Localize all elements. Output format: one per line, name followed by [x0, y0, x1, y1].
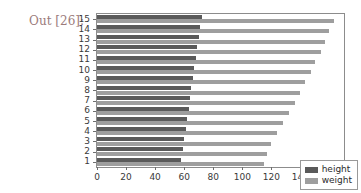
y-axis-tick-label: 3 [60, 137, 90, 146]
matplotlib-figure: 123456789101112131415 020406080100120140… [0, 0, 361, 193]
bar-weight [97, 80, 305, 84]
bar-weight [97, 111, 289, 115]
y-axis-tick-label: 13 [60, 35, 90, 44]
bar-group [97, 55, 344, 65]
y-axis-tick-label: 4 [60, 127, 90, 136]
legend-item: weight [305, 175, 352, 186]
y-axis-tick-mark [93, 70, 96, 71]
y-axis-tick-mark [93, 90, 96, 91]
bar-weight [97, 19, 334, 23]
bar-group [97, 75, 344, 85]
y-axis-tick-mark [93, 141, 96, 142]
bar-group [97, 45, 344, 55]
bar-height [97, 127, 186, 131]
bar-weight [97, 121, 283, 125]
bar-group [97, 34, 344, 44]
legend-item: height [305, 164, 352, 175]
bar-group [97, 14, 344, 24]
bar-height [97, 15, 202, 19]
y-axis-tick-mark [93, 80, 96, 81]
legend-swatch-icon [305, 167, 318, 173]
bar-weight [97, 60, 315, 64]
y-axis-tick-label: 9 [60, 76, 90, 85]
y-axis-tick-label: 7 [60, 96, 90, 105]
bar-weight [97, 29, 329, 33]
bar-weight [97, 152, 267, 156]
bar-height [97, 158, 181, 162]
y-axis-tick-mark [93, 101, 96, 102]
bar-weight [97, 50, 321, 54]
x-axis-tick-mark [155, 167, 156, 170]
y-axis-tick-label: 5 [60, 117, 90, 126]
y-axis-tick-mark [93, 50, 96, 51]
x-axis-tick-label: 120 [256, 173, 286, 182]
bar-group [97, 116, 344, 126]
bar-height [97, 107, 189, 111]
y-axis-tick-mark [93, 121, 96, 122]
legend-item-label: weight [322, 176, 352, 185]
x-axis-tick-label: 20 [111, 173, 141, 182]
y-axis-tick-label: 2 [60, 147, 90, 156]
bar-height [97, 137, 184, 141]
bar-weight [97, 101, 295, 105]
bar-height [97, 66, 194, 70]
bar-weight [97, 40, 325, 44]
x-axis-tick-label: 40 [140, 173, 170, 182]
x-axis-tick-mark [126, 167, 127, 170]
x-axis-tick-mark [271, 167, 272, 170]
bar-height [97, 56, 196, 60]
y-axis-tick-mark [93, 162, 96, 163]
y-axis-tick-label: 6 [60, 106, 90, 115]
x-axis-tick-label: 0 [82, 173, 112, 182]
y-axis-tick-mark [93, 60, 96, 61]
x-axis-tick-label: 80 [198, 173, 228, 182]
bar-height [97, 25, 200, 29]
bar-height [97, 45, 197, 49]
bar-height [97, 147, 183, 151]
y-axis-tick-label: 15 [60, 15, 90, 24]
y-axis-tick-label: 11 [60, 55, 90, 64]
bar-group [97, 126, 344, 136]
bar-group [97, 85, 344, 95]
y-axis-tick-label: 8 [60, 86, 90, 95]
bar-group [97, 24, 344, 34]
legend-swatch-icon [305, 178, 318, 184]
y-axis-tick-mark [93, 29, 96, 30]
y-axis-tick-mark [93, 111, 96, 112]
y-axis-tick-label: 14 [60, 25, 90, 34]
legend-item-label: height [322, 165, 351, 174]
x-axis-tick-mark [184, 167, 185, 170]
y-axis-tick-mark [93, 40, 96, 41]
x-axis-tick-mark [97, 167, 98, 170]
y-axis-tick-mark [93, 19, 96, 20]
bar-weight [97, 142, 271, 146]
y-axis-tick-label: 10 [60, 66, 90, 75]
y-axis-tick-mark [93, 131, 96, 132]
chart-legend: height weight [300, 160, 358, 190]
x-axis-tick-label: 100 [227, 173, 257, 182]
bar-height [97, 76, 193, 80]
x-axis-tick-mark [213, 167, 214, 170]
bar-weight [97, 162, 264, 166]
bar-weight [97, 70, 311, 74]
plot-axes-frame [96, 13, 345, 168]
bar-height [97, 35, 199, 39]
bar-group [97, 147, 344, 157]
x-axis-tick-label: 60 [169, 173, 199, 182]
bar-height [97, 117, 187, 121]
x-axis-tick-mark [242, 167, 243, 170]
y-axis-tick-mark [93, 152, 96, 153]
bar-group [97, 96, 344, 106]
bar-height [97, 86, 191, 90]
y-axis-tick-label: 12 [60, 45, 90, 54]
bar-group [97, 106, 344, 116]
y-axis-tick-label: 1 [60, 157, 90, 166]
bar-group [97, 65, 344, 75]
bar-weight [97, 131, 277, 135]
bar-height [97, 96, 190, 100]
bar-weight [97, 91, 300, 95]
bar-group [97, 136, 344, 146]
